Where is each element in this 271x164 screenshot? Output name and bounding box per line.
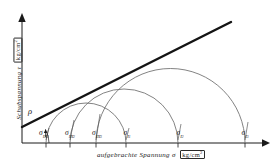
sigma-label-s1_2: σI2: [177, 128, 184, 139]
x-axis-label-symbol: σ: [172, 151, 176, 159]
sigma-sub-subscript: 2: [73, 135, 75, 139]
y-axis-unit: kg/cm2: [14, 37, 23, 62]
sigma-label-s3_1: σIII1: [39, 128, 49, 139]
sigma-sub-subscript: 3: [100, 135, 102, 139]
mohr-circles: [46, 69, 245, 144]
x-axis-label: aufgebrachte Spannung σ kg/cm2: [56, 150, 246, 159]
y-axis-label: Schubspannung τ kg/cm2: [13, 27, 22, 131]
sigma-label-s3_3: σIII3: [92, 128, 102, 139]
sigma-label-s1_3: σI3: [242, 128, 249, 139]
y-axis-unit-exponent: 2: [13, 40, 18, 43]
y-axis-arrowhead: [18, 13, 25, 22]
x-axis-unit-text: kg/cm: [182, 151, 200, 158]
sigma-label-s3_2: σIII2: [65, 128, 75, 139]
rho-angle-label: ρ: [28, 106, 32, 116]
sigma-sub-subscript: 1: [129, 135, 131, 139]
x-axis-label-text: aufgebrachte Spannung: [97, 151, 170, 159]
x-axis-unit-exponent: 2: [200, 150, 203, 155]
sigma-sub-subscript: 2: [182, 135, 184, 139]
x-axis-unit: kg/cm2: [180, 150, 205, 159]
y-axis-unit-text: kg/cm: [15, 42, 22, 60]
sigma-label-s1_1: σI1: [124, 128, 131, 139]
y-axis-label-text: Schubspannung: [15, 72, 23, 120]
y-axis-label-symbol: τ: [15, 67, 23, 70]
mohr-circle-figure: ρ Schubspannung τ kg/cm2 aufgebrachte Sp…: [0, 0, 271, 164]
x-axis: [22, 139, 270, 147]
sigma-sub-subscript: 1: [47, 135, 49, 139]
x-axis-arrowhead: [262, 139, 270, 147]
x-axis-ticks: [46, 143, 245, 148]
plot-canvas: [0, 0, 271, 164]
sigma-sub-subscript: 3: [247, 135, 249, 139]
